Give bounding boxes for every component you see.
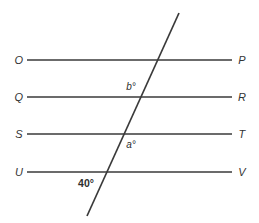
parallel-lines-group [27, 60, 232, 172]
point-label-V: V [238, 167, 246, 178]
angle-label-forty: 40° [78, 178, 94, 189]
geometry-diagram: OPQRSTUV b°a°40° [0, 0, 259, 223]
point-label-Q: Q [15, 92, 24, 103]
point-label-T: T [239, 129, 246, 140]
point-label-U: U [15, 167, 23, 178]
diagram-canvas [0, 0, 259, 223]
point-label-S: S [15, 129, 23, 140]
angle-label-b: b° [126, 82, 136, 92]
transversal-line-group [87, 13, 179, 216]
angle-label-a: a° [126, 140, 136, 150]
point-label-P: P [238, 55, 246, 66]
point-label-R: R [238, 92, 246, 103]
point-label-O: O [15, 55, 24, 66]
transversal-line [87, 13, 179, 216]
